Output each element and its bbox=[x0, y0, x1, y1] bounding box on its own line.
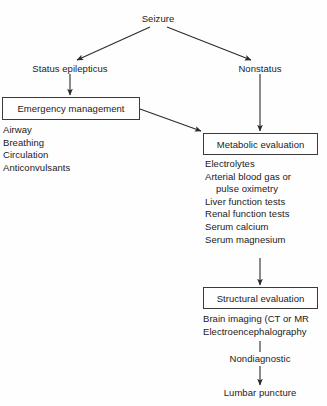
flowchart-canvas: Seizure Status epilepticus Nonstatus Eme… bbox=[0, 0, 327, 406]
edge-seizure-to-status bbox=[77, 27, 150, 60]
box-structural-evaluation: Structural evaluation bbox=[203, 287, 318, 309]
list-item: Renal function tests bbox=[205, 208, 291, 221]
node-seizure: Seizure bbox=[142, 13, 175, 24]
list-item: pulse oximetry bbox=[205, 183, 291, 196]
node-status-epilepticus: Status epilepticus bbox=[32, 63, 107, 74]
list-item: Anticonvulsants bbox=[3, 162, 70, 175]
box-structural-evaluation-label: Structural evaluation bbox=[217, 293, 305, 304]
list-item: Breathing bbox=[3, 137, 70, 150]
list-metabolic-evaluation: Electrolytes Arterial blood gas or pulse… bbox=[205, 158, 291, 246]
list-item: Airway bbox=[3, 124, 70, 137]
edge-emergency-to-metabolic bbox=[140, 109, 201, 131]
list-item: Electrolytes bbox=[205, 158, 291, 171]
box-emergency-management: Emergency management bbox=[2, 97, 140, 120]
list-emergency-management: Airway Breathing Circulation Anticonvuls… bbox=[3, 124, 70, 174]
node-nonstatus: Nonstatus bbox=[238, 63, 281, 74]
list-item: Arterial blood gas or bbox=[205, 171, 291, 184]
box-emergency-management-label: Emergency management bbox=[17, 103, 124, 114]
list-item: Serum magnesium bbox=[205, 234, 291, 247]
node-lumbar-puncture: Lumbar puncture bbox=[224, 387, 297, 398]
list-item: Liver function tests bbox=[205, 196, 291, 209]
list-item: Brain imaging (CT or MR bbox=[203, 313, 309, 326]
node-nondiagnostic: Nondiagnostic bbox=[230, 353, 291, 364]
list-item: Serum calcium bbox=[205, 221, 291, 234]
box-metabolic-evaluation-label: Metabolic evaluation bbox=[217, 139, 305, 150]
list-item: Electroencephalography bbox=[203, 326, 309, 339]
list-structural-evaluation: Brain imaging (CT or MR Electroencephalo… bbox=[203, 313, 309, 338]
box-metabolic-evaluation: Metabolic evaluation bbox=[203, 133, 318, 155]
edge-seizure-to-nonstatus bbox=[167, 27, 251, 60]
list-item: Circulation bbox=[3, 149, 70, 162]
